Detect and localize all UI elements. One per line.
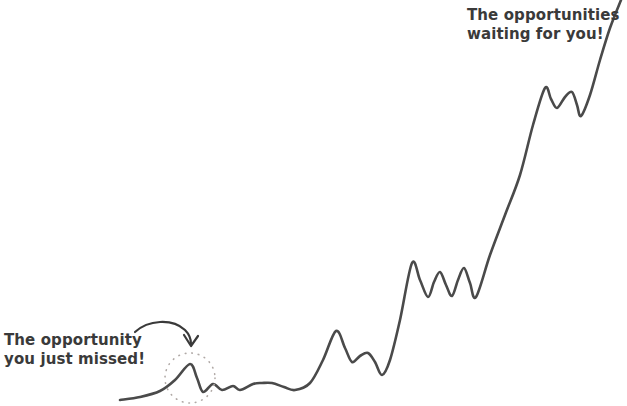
annotation-missed-line-2: you just missed!	[4, 350, 145, 369]
annotation-waiting-line-2: waiting for you!	[467, 25, 620, 44]
chart-canvas: The opportunity you just missed! The opp…	[0, 0, 627, 406]
annotation-waiting-line-1: The opportunities	[467, 6, 620, 25]
annotation-missed-line-1: The opportunity	[4, 331, 145, 350]
missed-opportunity-dotted-circle	[165, 353, 215, 403]
annotation-missed-opportunity: The opportunity you just missed!	[4, 331, 145, 369]
annotation-waiting-opportunities: The opportunities waiting for you!	[467, 6, 620, 44]
